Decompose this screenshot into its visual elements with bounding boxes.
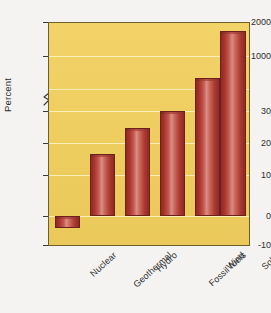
bar-cap (196, 79, 219, 81)
bar-wind (195, 78, 220, 216)
bar-solar (220, 31, 246, 216)
bar-cap (91, 155, 114, 157)
bar-geothermal (90, 154, 115, 216)
bar-chart: Percent 2000 1000 30 20 10 0 -10 (0, 0, 271, 313)
plot-area (48, 22, 250, 246)
x-tick-label-nuclear: Nuclear (88, 250, 118, 279)
bar-cap (56, 217, 79, 219)
gridline-1000 (49, 56, 249, 57)
x-tick-label-solar: Solar (260, 250, 271, 272)
bar-cap (221, 32, 245, 34)
bar-fossil-fuels (160, 111, 185, 216)
bar-cap (161, 112, 184, 114)
y-axis-title: Percent (2, 78, 13, 112)
bar-cap (126, 129, 149, 131)
bar-nuclear (55, 216, 80, 228)
x-tick-label-hydro: Hydro (154, 250, 179, 274)
bar-hydro (125, 128, 150, 216)
